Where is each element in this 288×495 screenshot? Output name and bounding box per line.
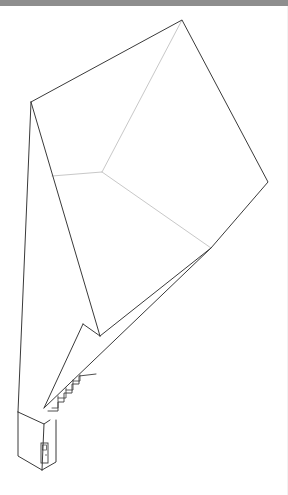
door-knob xyxy=(45,454,46,455)
faint-line xyxy=(52,172,102,176)
faint-line xyxy=(102,172,211,248)
base-box xyxy=(18,412,56,470)
box-left-face xyxy=(18,412,42,470)
line-drawing xyxy=(0,0,288,495)
staircase xyxy=(48,374,96,411)
left-outer-edge xyxy=(18,102,31,412)
stair-line xyxy=(48,374,96,411)
faint-line xyxy=(102,20,182,172)
box-top-edge xyxy=(18,412,50,424)
faint-construction-lines xyxy=(52,20,211,248)
lower-diagonal xyxy=(44,248,211,408)
main-outline xyxy=(18,20,268,412)
roof-outline xyxy=(31,20,268,336)
inner-triangle-edge xyxy=(44,324,83,408)
left-inner-edge xyxy=(31,102,100,336)
